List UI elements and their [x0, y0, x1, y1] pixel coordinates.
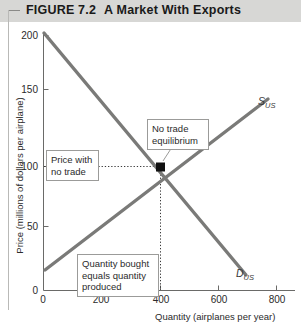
y-tick-label-200: 200 — [12, 30, 38, 41]
annotation-no-trade-equilibrium: No trade equilibrium — [147, 119, 209, 150]
figure-number: FIGURE 7.2 — [26, 3, 96, 17]
x-tick-label-600: 600 — [204, 294, 234, 305]
demand-curve-label-main: D — [236, 267, 244, 279]
supply-curve-label-sub: US — [265, 101, 275, 110]
demand-curve-label: DUS — [236, 267, 254, 282]
y-axis-title: Price (millions of dollars per airplane) — [14, 81, 25, 271]
x-axis-title: Quantity (airplanes per year) — [155, 311, 275, 322]
supply-curve-label: SUS — [258, 95, 275, 110]
x-tick-label-0: 0 — [28, 294, 58, 305]
title-bracket-horizontal — [8, 10, 20, 11]
figure-caption: A Market With Exports — [96, 3, 241, 17]
supply-curve-label-main: S — [258, 95, 265, 107]
equilibrium-point-marker — [156, 163, 165, 172]
figure-title: FIGURE 7.2A Market With Exports — [26, 3, 241, 17]
x-tick-label-800: 800 — [262, 294, 292, 305]
demand-curve-label-sub: US — [244, 273, 254, 282]
annotation-price-with-no-trade: Price with no trade — [46, 150, 99, 181]
chart-plot-area: 200 150 100 50 0 0 200 400 600 800 Price… — [0, 22, 301, 333]
annotation-quantity-bought-equals-produced: Quantity bought equals quantity produced — [77, 254, 159, 297]
figure-container: FIGURE 7.2A Market With Exports — [0, 0, 301, 333]
